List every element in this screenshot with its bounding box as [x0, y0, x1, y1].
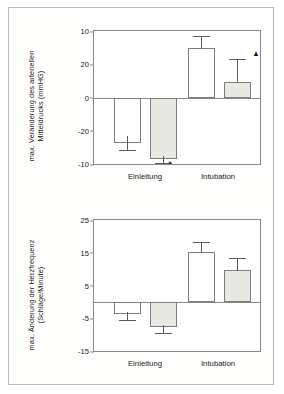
errorcap-intubation-gray-map [229, 59, 246, 60]
x-label-intubation-map: Intubation [201, 172, 235, 181]
errorbar-einleitung-gray-hr [163, 325, 164, 333]
errorcap-einleitung-white-hr [119, 320, 136, 321]
errorcap-intubation-white-map [193, 36, 210, 37]
plot-area-heart-rate: 25 15 5 -5 -15 [93, 219, 261, 352]
y-tick-map-4: -10 [78, 160, 94, 169]
x-label-intubation-hr: Intubation [201, 359, 235, 368]
y-axis-title-line1: max. Veränderung des arteriellen [27, 51, 36, 162]
errorbar-einleitung-white-map [127, 136, 128, 150]
significance-marker-asterisk-map: * [168, 160, 172, 169]
bar-einleitung-gray-hr [150, 302, 177, 327]
y-tick-map-1: 20 [81, 60, 94, 69]
y-axis-title-line1: max. Änderung der Herzfrequenz [27, 240, 36, 351]
x-label-einleitung-hr: Einleitung [128, 359, 162, 368]
y-tick-hr-3: -5 [82, 314, 94, 323]
errorbar-intubation-white-map [201, 36, 202, 49]
y-tick-hr-1: 15 [81, 248, 94, 257]
errorbar-einleitung-gray-map [163, 156, 164, 163]
errorbar-intubation-gray-map [237, 59, 238, 82]
bar-intubation-white-map [188, 48, 215, 98]
y-tick-map-3: -20 [78, 126, 94, 135]
bar-einleitung-gray-map [150, 98, 177, 159]
y-axis-title-line2: (Schläge/Minute) [36, 267, 45, 324]
figure-frame: max. Veränderung des arteriellen Mitteld… [8, 7, 274, 385]
y-tick-hr-4: -15 [78, 347, 94, 356]
errorbar-einleitung-white-hr [127, 312, 128, 320]
errorbar-intubation-white-hr [201, 242, 202, 253]
x-label-einleitung-map: Einleitung [128, 172, 162, 181]
significance-marker-triangle-map: ▲ [252, 50, 259, 58]
errorbar-intubation-gray-hr [237, 258, 238, 271]
errorcap-intubation-gray-hr [229, 258, 246, 259]
bar-intubation-gray-hr [224, 270, 251, 302]
y-tick-hr-0: 25 [81, 216, 94, 225]
y-axis-title-heart-rate: max. Änderung der Herzfrequenz (Schläge/… [17, 213, 55, 377]
bar-intubation-white-hr [188, 252, 215, 302]
y-tick-map-0: 10 [81, 27, 94, 36]
chart-panel-arterial-pressure: max. Veränderung des arteriellen Mitteld… [9, 8, 275, 197]
chart-panel-heart-rate: max. Änderung der Herzfrequenz (Schläge/… [9, 197, 275, 386]
errorcap-einleitung-white-map [119, 150, 136, 151]
y-axis-title-line2: Mitteldrucks (mmHG) [36, 71, 45, 142]
y-tick-map-2: 0 [85, 93, 94, 102]
y-tick-hr-2: 5 [85, 281, 94, 290]
errorcap-intubation-white-hr [193, 242, 210, 243]
bar-intubation-gray-map [224, 82, 251, 98]
y-axis-title-arterial-pressure: max. Veränderung des arteriellen Mitteld… [17, 24, 55, 188]
errorcap-einleitung-gray-hr [155, 333, 172, 334]
plot-area-arterial-pressure: 10 20 0 -20 -10 * ▲ [93, 30, 261, 165]
